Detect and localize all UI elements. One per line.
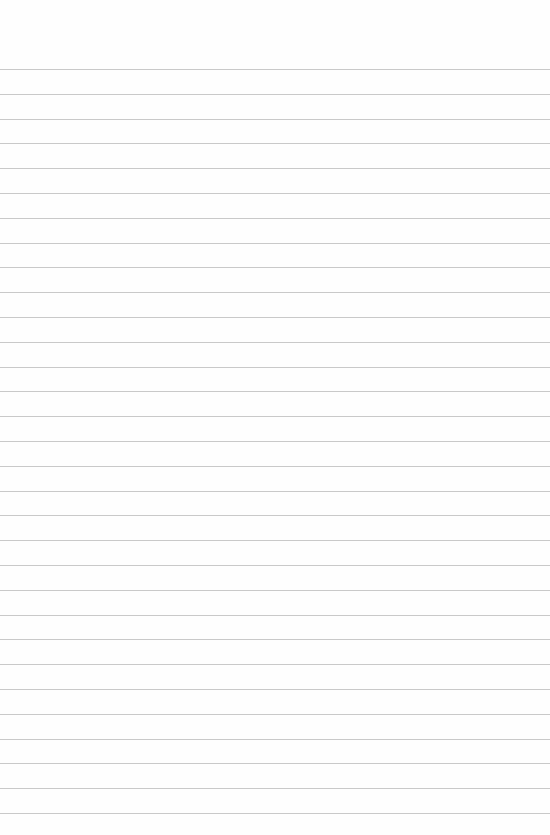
ruled-line xyxy=(0,168,550,169)
ruled-line xyxy=(0,119,550,120)
ruled-line xyxy=(0,69,550,70)
ruled-line xyxy=(0,813,550,814)
ruled-line xyxy=(0,218,550,219)
ruled-line xyxy=(0,565,550,566)
ruled-line xyxy=(0,94,550,95)
ruled-line xyxy=(0,763,550,764)
ruled-line xyxy=(0,664,550,665)
ruled-line xyxy=(0,615,550,616)
ruled-line xyxy=(0,689,550,690)
ruled-line xyxy=(0,243,550,244)
ruled-line xyxy=(0,466,550,467)
ruled-line xyxy=(0,441,550,442)
ruled-line xyxy=(0,317,550,318)
ruled-line xyxy=(0,540,550,541)
ruled-line xyxy=(0,342,550,343)
ruled-line xyxy=(0,267,550,268)
ruled-line xyxy=(0,391,550,392)
ruled-line xyxy=(0,639,550,640)
ruled-line xyxy=(0,143,550,144)
ruled-line xyxy=(0,714,550,715)
ruled-line xyxy=(0,590,550,591)
ruled-line xyxy=(0,788,550,789)
ruled-line xyxy=(0,367,550,368)
ruled-line xyxy=(0,416,550,417)
ruled-line xyxy=(0,292,550,293)
ruled-line xyxy=(0,491,550,492)
ruled-line xyxy=(0,193,550,194)
ruled-line xyxy=(0,515,550,516)
ruled-line xyxy=(0,739,550,740)
lined-paper-sheet xyxy=(0,0,550,835)
